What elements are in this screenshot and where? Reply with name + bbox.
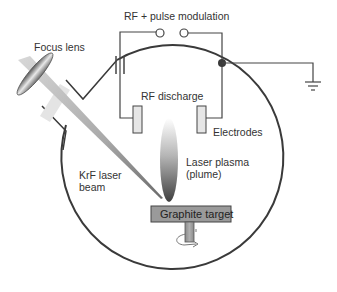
ground-icon (305, 82, 321, 90)
chamber-port-upper (66, 60, 117, 99)
label-focus-lens: Focus lens (34, 41, 85, 53)
label-krf-line1: KrF laser (79, 169, 122, 181)
pld-diagram: RF + pulse modulation Focus lens RF disc… (0, 0, 337, 292)
label-graphite-target: Graphite target (160, 208, 233, 220)
rf-wire-left (120, 32, 158, 118)
label-plasma-line1: Laser plasma (186, 156, 249, 168)
label-krf-line2: beam (79, 181, 106, 193)
label-plasma-line2: (plume) (186, 168, 222, 180)
electrode-right (197, 106, 206, 133)
terminal-left (156, 29, 164, 37)
label-rf-discharge: RF discharge (141, 90, 204, 102)
shaft-pin (194, 229, 197, 232)
terminal-right (180, 29, 188, 37)
label-rf-modulation: RF + pulse modulation (124, 10, 230, 22)
electrode-left (133, 106, 142, 133)
label-electrodes: Electrodes (213, 126, 263, 138)
rotation-shaft (185, 222, 194, 242)
laser-plasma-plume (160, 118, 178, 202)
rf-wire-right (188, 33, 222, 118)
